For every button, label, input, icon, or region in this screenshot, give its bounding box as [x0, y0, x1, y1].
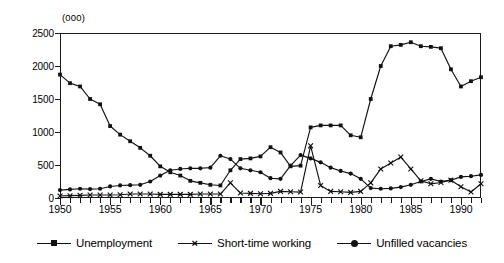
x-tick-mark-minor [431, 198, 432, 203]
x-tick-mark-minor [100, 198, 101, 203]
x-tick-mark-minor [331, 198, 332, 203]
y-tick-mark [55, 165, 61, 166]
x-tick-mark-minor [401, 198, 402, 203]
x-tick-mark-minor [271, 198, 272, 203]
y-tick-label: 2000 [20, 61, 54, 72]
x-tick-mark-minor [421, 198, 422, 203]
x-tick-mark-minor [391, 198, 392, 203]
x-tick-label: 1960 [149, 203, 172, 215]
x-tick-mark-minor [471, 198, 472, 203]
x-tick-mark-minor [341, 198, 342, 203]
x-tick-mark-minor [170, 198, 171, 203]
x-tick-mark-minor [70, 198, 71, 203]
y-tick-label: 2500 [20, 28, 54, 39]
x-tick-mark-minor [80, 198, 81, 203]
x-tick-label: 1985 [399, 203, 422, 215]
x-tick-mark-minor [150, 198, 151, 203]
legend-label: Unemployment [76, 237, 152, 249]
legend-item[interactable]: Unemployment [37, 237, 152, 249]
x-tick-mark-minor [90, 198, 91, 203]
y-tick-label: 1500 [20, 94, 54, 105]
plot-area [60, 33, 481, 198]
legend-label: Unfilled vacancies [376, 237, 467, 249]
x-tick-mark-minor [451, 198, 452, 203]
y-tick-label: 500 [20, 160, 54, 171]
legend-item[interactable]: Unfilled vacancies [337, 237, 467, 249]
x-tick-mark-minor [371, 198, 372, 203]
x-tick-mark-minor [190, 198, 191, 203]
x-tick-label: 1955 [99, 203, 122, 215]
x-tick-label: 1975 [299, 203, 322, 215]
y-tick-mark [55, 66, 61, 67]
chart-legend: Unemployment×Short-time workingUnfilled … [0, 232, 504, 254]
x-tick-mark-minor [281, 198, 282, 203]
legend-marker-circle-icon [337, 238, 371, 249]
x-tick-label: 1970 [249, 203, 272, 215]
y-tick-label: 1000 [20, 127, 54, 138]
legend-marker-cross-icon: × [178, 238, 212, 249]
x-tick-mark-minor [140, 198, 141, 203]
x-tick-mark-minor [130, 198, 131, 203]
x-tick-mark-minor [180, 198, 181, 203]
x-tick-mark-minor [220, 198, 221, 203]
x-tick-mark-minor [200, 198, 201, 203]
x-tick-mark-minor [230, 198, 231, 203]
y-axis: 05001000150020002500 [20, 0, 54, 263]
x-tick-mark-minor [441, 198, 442, 203]
x-tick-mark-minor [381, 198, 382, 203]
x-tick-mark-minor [291, 198, 292, 203]
legend-marker-square-icon [37, 238, 71, 249]
x-tick-label: 1965 [199, 203, 222, 215]
x-tick-mark-minor [321, 198, 322, 203]
y-tick-mark [55, 99, 61, 100]
x-tick-mark-minor [301, 198, 302, 203]
x-tick-mark-minor [250, 198, 251, 203]
legend-label: Short-time working [217, 237, 311, 249]
x-tick-mark-minor [351, 198, 352, 203]
y-tick-mark [55, 132, 61, 133]
x-tick-label: 1980 [349, 203, 372, 215]
y-tick-mark [55, 33, 61, 34]
x-tick-mark-minor [120, 198, 121, 203]
x-tick-mark-minor [240, 198, 241, 203]
chart-container: (000) 05001000150020002500 1950195519601… [0, 0, 504, 263]
y-tick-label: 0 [20, 193, 54, 204]
x-tick-label: 1950 [49, 203, 72, 215]
legend-item[interactable]: ×Short-time working [178, 237, 311, 249]
x-tick-mark-minor [481, 198, 482, 203]
x-tick-label: 1990 [449, 203, 472, 215]
units-label: (000) [62, 12, 85, 23]
